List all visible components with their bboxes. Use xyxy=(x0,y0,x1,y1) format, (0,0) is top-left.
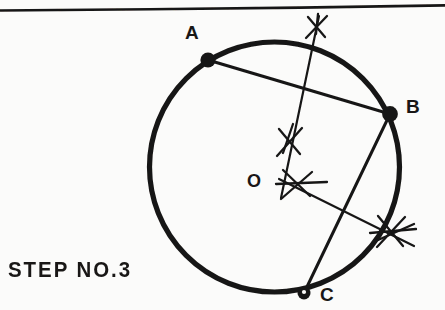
arc-cross-lower-center xyxy=(276,170,327,199)
arc-cross-top xyxy=(306,14,327,38)
chord-ab xyxy=(208,60,390,114)
point-dot-a xyxy=(200,52,215,67)
page-border-rule xyxy=(0,5,445,10)
point-label-b: B xyxy=(406,96,420,118)
point-label-c: C xyxy=(320,284,334,306)
step-caption: STEP NO.3 xyxy=(8,257,132,283)
center-label-o: O xyxy=(247,171,261,192)
point-label-a: A xyxy=(185,22,199,44)
point-dot-b xyxy=(382,106,398,122)
geometry-figure-panel: A B C O STEP NO.3 xyxy=(0,0,445,310)
point-dot-c-highlight xyxy=(302,290,306,294)
arc-cross-upper-center xyxy=(277,124,302,156)
